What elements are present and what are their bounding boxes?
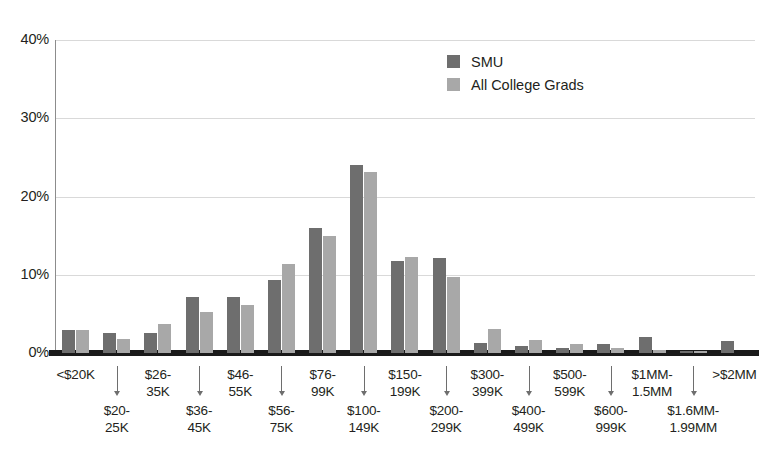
bar-smu [309,228,322,353]
bar-group [714,40,755,353]
x-axis-label-line: >$2MM [689,366,766,383]
x-axis-label-line: $1.6MM- [648,402,738,419]
bar-chart: 0%10%20%30%40% SMU All College Grads <$2… [0,0,766,452]
bar-group [343,40,384,353]
x-axis-label-line: 99K [278,383,368,400]
bar-smu [433,258,446,353]
x-axis-category-label: $36-45K [154,402,244,436]
x-axis-category-label: $76-99K [278,366,368,400]
x-axis-label-line: 1.99MM [648,419,738,436]
bar-all-college-grads [76,330,89,353]
x-axis-label-line: 199K [360,383,450,400]
bar-smu [186,297,199,353]
x-axis-category-label: $150-199K [360,366,450,400]
bar-smu [639,337,652,353]
bar-all-college-grads [611,348,624,353]
x-axis-category-label: $100-149K [319,402,409,436]
legend-swatch-icon-all-college-grads [447,78,460,91]
bar-all-college-grads [364,172,377,353]
bar-all-college-grads [488,329,501,353]
bar-group [302,40,343,353]
x-axis-label-line: $200- [401,402,491,419]
bar-smu [62,330,75,353]
x-axis-category-labels: <$20K$20-25K$26-35K$36-45K$46-55K$56-75K… [55,356,755,452]
x-axis-label-line: 499K [484,419,574,436]
x-axis-label-line: $76- [278,366,368,383]
bar-all-college-grads [653,350,666,353]
bar-group [384,40,425,353]
x-axis-label-line: $20- [72,402,162,419]
bar-all-college-grads [570,344,583,353]
legend-item-all-college-grads: All College Grads [447,73,667,96]
x-axis-label-line: 149K [319,419,409,436]
x-axis-label-line: $26- [113,366,203,383]
y-axis-tick-label: 0% [3,344,49,360]
x-axis-label-line: 25K [72,419,162,436]
bar-all-college-grads [282,264,295,353]
bar-smu [391,261,404,353]
bar-group [261,40,302,353]
bar-all-college-grads [117,339,130,353]
bar-group [673,40,714,353]
bar-smu [474,343,487,353]
x-axis-category-label: $46-55K [195,366,285,400]
y-axis-tick-label: 40% [3,31,49,47]
bar-smu [721,341,734,353]
bar-group [55,40,96,353]
x-axis-category-label: $20-25K [72,402,162,436]
x-axis-label-line: 999K [566,419,656,436]
x-axis-label-line: $300- [442,366,532,383]
bar-smu [103,333,116,353]
x-axis-category-label: $1MM-1.5MM [607,366,697,400]
x-axis-category-label: $300-399K [442,366,532,400]
bar-smu [227,297,240,353]
y-axis-tick-label: 10% [3,266,49,282]
x-axis-label-line: 299K [401,419,491,436]
bar-smu [515,346,528,353]
x-axis-category-label: $600-999K [566,402,656,436]
bar-group [137,40,178,353]
x-axis-label-line: 599K [525,383,615,400]
bar-group [220,40,261,353]
bar-all-college-grads [200,312,213,353]
bar-smu [268,280,281,353]
bar-smu [680,351,693,353]
x-axis-category-label: $200-299K [401,402,491,436]
bar-all-college-grads [694,351,707,353]
x-axis-category-label: <$20K [31,366,121,383]
bar-smu [144,333,157,353]
bar-group [96,40,137,353]
x-axis-label-line: $56- [236,402,326,419]
x-axis-label-line: 399K [442,383,532,400]
x-axis-label-line: $500- [525,366,615,383]
x-axis-label-line: 55K [195,383,285,400]
x-axis-category-label: $1.6MM-1.99MM [648,402,738,436]
x-axis-label-line: <$20K [31,366,121,383]
y-axis-tick-label: 30% [3,109,49,125]
bar-all-college-grads [529,340,542,353]
x-axis-label-line: 35K [113,383,203,400]
legend-swatch-icon-smu [447,55,460,68]
legend-label-all-college-grads: All College Grads [471,77,584,93]
x-axis-label-line: 1.5MM [607,383,697,400]
x-axis-label-line: $400- [484,402,574,419]
x-axis-category-label: $400-499K [484,402,574,436]
bar-all-college-grads [447,277,460,353]
y-axis-tick-labels: 0%10%20%30%40% [0,0,49,452]
x-axis-category-label: $56-75K [236,402,326,436]
x-axis-label-line: $150- [360,366,450,383]
x-axis-label-line: $100- [319,402,409,419]
x-axis-label-line: $1MM- [607,366,697,383]
x-axis-label-line: $46- [195,366,285,383]
x-axis-label-line: 75K [236,419,326,436]
x-axis-category-label: $26-35K [113,366,203,400]
y-axis-tick-label: 20% [3,188,49,204]
x-axis-category-label: >$2MM [689,366,766,383]
chart-legend: SMU All College Grads [447,50,667,96]
legend-label-smu: SMU [471,54,503,70]
bar-smu [556,348,569,353]
bar-smu [350,165,363,353]
bar-all-college-grads [158,324,171,353]
bar-all-college-grads [323,236,336,353]
bar-smu [597,344,610,353]
